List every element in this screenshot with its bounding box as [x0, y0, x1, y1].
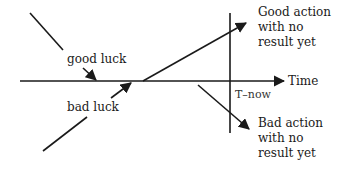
time-axis-label: Time	[288, 74, 318, 89]
good-luck-trajectory	[30, 13, 63, 50]
t-now-label: T–now	[235, 87, 271, 102]
bad-luck-label: bad luck	[67, 100, 119, 115]
bad-outcome-label: Bad action with no result yet	[258, 116, 323, 161]
good-outcome-line-3: result yet	[258, 35, 331, 50]
bad-luck-trajectory	[43, 117, 87, 151]
good-outcome-line-2: with no	[258, 20, 331, 35]
good-outcome-label: Good action with no result yet	[258, 5, 331, 50]
good-luck-label: good luck	[67, 52, 126, 67]
bad-luck-arrow	[111, 83, 131, 98]
good-outcome-line-1: Good action	[258, 5, 331, 20]
good-luck-arrow	[83, 68, 96, 80]
bad-outcome-line-3: result yet	[258, 146, 323, 161]
bad-outcome-line-1: Bad action	[258, 116, 323, 131]
bad-outcome-line-2: with no	[258, 131, 323, 146]
